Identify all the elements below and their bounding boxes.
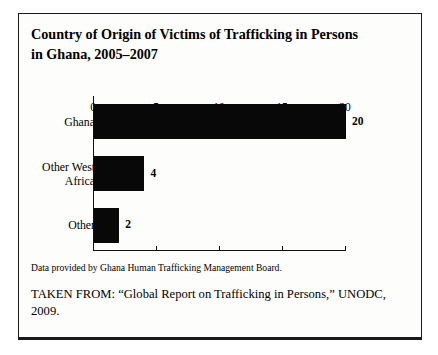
figure-box: Country of Origin of Victims of Traffick… [18,13,422,340]
category-label: Other West Africa [42,160,95,189]
figure-title: Country of Origin of Victims of Traffick… [31,24,361,64]
bar-value-label: 20 [352,116,364,128]
source-note: Data provided by Ghana Human Trafficking… [31,262,411,274]
x-axis-tick [156,246,157,251]
category-label: Other [68,218,95,232]
bar-value-label: 2 [125,219,131,231]
bar [94,156,144,191]
bar-chart: 051015202042 GhanaOther West AfricaOther [19,84,423,269]
plot-area: 051015202042 [93,96,345,251]
x-axis-tick [282,246,283,251]
x-axis-tick [93,246,94,251]
bar [94,208,119,243]
x-axis-tick [219,246,220,251]
bar [94,104,346,139]
bar-value-label: 4 [150,168,156,180]
x-axis-tick [345,246,346,251]
taken-from-note: TAKEN FROM: “Global Report on Traffickin… [31,286,411,320]
category-label: Ghana [64,115,95,129]
